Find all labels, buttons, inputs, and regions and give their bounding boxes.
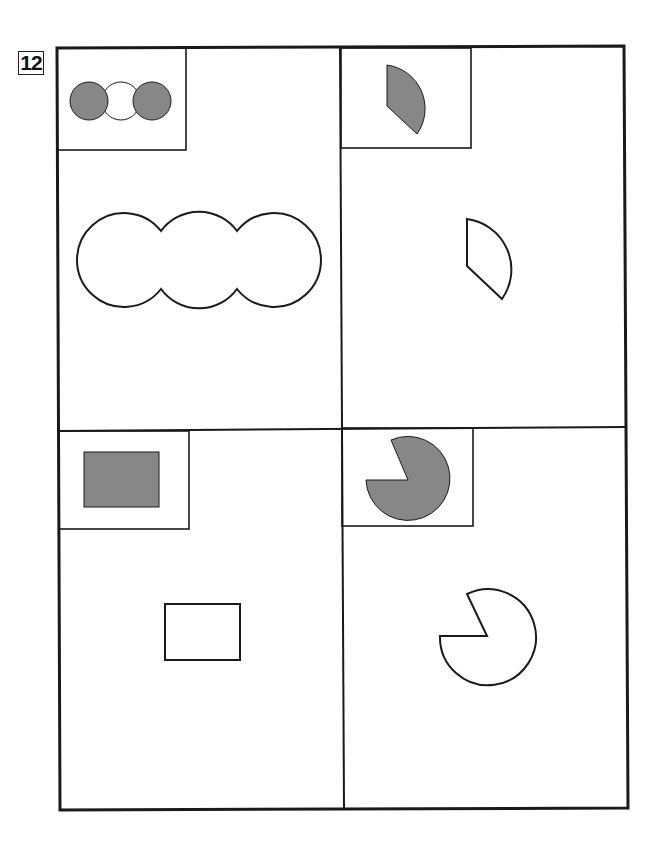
answer-three-circles-outline-icon [77,212,321,309]
worksheet-grid [0,0,653,865]
panel-top-left [57,48,321,308]
answer-rectangle-outline-icon [165,604,240,660]
answer-pacman-outline-icon [440,589,536,685]
example-rectangle-shaded-icon [84,452,159,507]
panel-bottom-left [59,431,240,660]
example-three-circles-icon [70,82,171,120]
answer-sector-outline-icon [467,219,511,299]
panel-bottom-right [342,428,536,685]
example-sector-shaded-icon [387,65,425,134]
example-pacman-shaded-icon [366,436,450,520]
panel-top-right [341,48,511,299]
